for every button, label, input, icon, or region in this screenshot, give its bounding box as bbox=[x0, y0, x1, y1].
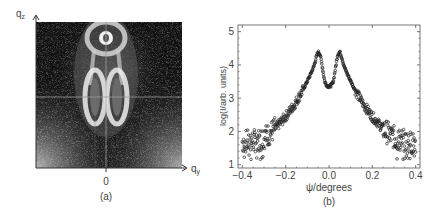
panel-a-scattering-map: qz qy 0 (a) bbox=[0, 0, 220, 218]
panel-a-caption: (a) bbox=[100, 191, 112, 202]
scattering-map-svg: qz qy 0 (a) bbox=[0, 0, 220, 218]
y-axis-label: log(I/arb. units) bbox=[220, 66, 228, 126]
panel-b-intensity-plot: 12345 −0.4−0.20.00.20.4 log(I/arb. units… bbox=[220, 0, 441, 218]
data-points bbox=[241, 50, 417, 161]
map-image bbox=[36, 13, 182, 168]
x-axis-label: qy bbox=[191, 163, 201, 176]
intensity-plot-svg: 12345 −0.4−0.20.00.20.4 log(I/arb. units… bbox=[220, 0, 441, 218]
svg-text:4: 4 bbox=[228, 59, 234, 70]
panel-b-caption: (b) bbox=[323, 196, 335, 207]
x-axis-label: ψ/degrees bbox=[306, 182, 352, 193]
svg-text:0.4: 0.4 bbox=[409, 170, 423, 181]
svg-text:2: 2 bbox=[228, 126, 234, 137]
svg-text:0.2: 0.2 bbox=[365, 170, 379, 181]
svg-text:−0.4: −0.4 bbox=[232, 170, 252, 181]
svg-text:−0.2: −0.2 bbox=[276, 170, 296, 181]
svg-text:1: 1 bbox=[228, 159, 234, 170]
svg-text:0.0: 0.0 bbox=[322, 170, 336, 181]
svg-text:5: 5 bbox=[228, 26, 234, 37]
y-axis-label: qz bbox=[16, 8, 26, 20]
svg-text:3: 3 bbox=[228, 93, 234, 104]
x-tick-zero: 0 bbox=[103, 176, 109, 187]
